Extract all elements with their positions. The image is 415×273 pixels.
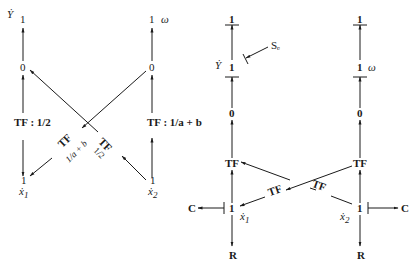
junction-0-right: 0 [149,62,155,73]
bond-x2-to-cross-tf-b [331,196,352,204]
tf-r2: TF [353,158,367,169]
bond-se-to-1 [246,47,268,58]
r-element-right: R [357,250,365,261]
junction-1-r2-top: 1 [357,14,363,25]
junction-1-r2-x2: 1 [357,203,363,214]
var-y-dot: Ẏ [7,9,13,20]
var-x2: ẋ2 [148,186,157,200]
causal-stroke-se [243,54,248,64]
source-effort: Sₑ [271,40,280,51]
junction-1-top-left: 1 [20,14,26,25]
junction-0-left: 0 [20,62,26,73]
tf-label-right: TF : 1/a + b [147,117,202,128]
bond-x2-to-cross-tf [122,156,146,180]
var-y-dot-right: Ẏ [215,60,221,71]
c-element-right: C [401,203,409,214]
junction-1-r1-mid: 1 [229,62,235,73]
var-omega-right: ω [368,62,376,73]
junction-0-r2: 0 [357,108,363,119]
junction-0-r1: 0 [229,108,235,119]
bond-cross-tf-a-to-x1 [240,197,265,206]
var-x1-right: ẋ1 [240,211,249,225]
junction-1-r2-mid: 1 [357,62,363,73]
r-element-left: R [229,250,237,261]
tf-r1: TF [225,158,239,169]
junction-1-r1-x1: 1 [229,203,235,214]
tf-label-left: TF : 1/2 [14,117,51,128]
c-element-left: C [188,203,196,214]
junction-1-top-right: 1 [149,14,155,25]
bond-cross-tf-to-x1 [30,158,52,176]
bond-right-0-to-cross [82,71,146,128]
var-omega: ω [161,14,169,25]
bond-cross-tf-b-to-left-tf [241,162,290,180]
junction-1-r1-top: 1 [229,14,235,25]
var-x1: ẋ1 [19,186,28,200]
var-x2-right: ẋ2 [340,211,349,225]
